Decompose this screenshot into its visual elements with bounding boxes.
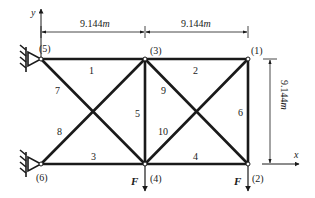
element-labels: 1 2 3 4 5 6 7 8 9 10 bbox=[55, 65, 243, 162]
node-6 bbox=[39, 162, 43, 166]
node-label-5: (5) bbox=[39, 43, 51, 55]
pin-support-node-5 bbox=[20, 45, 41, 72]
top-dimension: 9.144m 9.144m bbox=[41, 18, 248, 38]
load-label: F bbox=[130, 175, 139, 187]
element-label-7: 7 bbox=[55, 85, 60, 96]
truss-members bbox=[41, 59, 248, 164]
element-label-8: 8 bbox=[57, 126, 62, 137]
node-5 bbox=[39, 57, 43, 61]
y-axis-label: y bbox=[30, 7, 36, 18]
load-node-2: F bbox=[233, 166, 248, 191]
element-label-4: 4 bbox=[193, 151, 198, 162]
element-label-1: 1 bbox=[89, 65, 94, 76]
truss-diagram: y 9.144m 9.144m 9.144m x bbox=[0, 0, 315, 198]
element-label-2: 2 bbox=[193, 65, 198, 76]
dimension-left-label: 9.144m bbox=[80, 18, 110, 29]
element-label-3: 3 bbox=[91, 151, 96, 162]
node-label-3: (3) bbox=[150, 45, 162, 57]
node-3 bbox=[143, 57, 147, 61]
node-label-4: (4) bbox=[150, 173, 162, 185]
load-label: F bbox=[233, 175, 242, 187]
vertical-dimension: 9.144m bbox=[263, 59, 290, 163]
x-axis-label: x bbox=[293, 149, 299, 160]
node-label-2: (2) bbox=[252, 173, 264, 185]
node-label-1: (1) bbox=[251, 45, 263, 57]
element-label-9: 9 bbox=[161, 85, 166, 96]
element-label-10: 10 bbox=[158, 126, 168, 137]
x-axis: x bbox=[262, 149, 299, 164]
dimension-vertical-label: 9.144m bbox=[279, 80, 290, 110]
node-1 bbox=[246, 57, 250, 61]
node-label-6: (6) bbox=[36, 172, 48, 184]
load-node-4: F bbox=[130, 166, 145, 191]
element-label-6: 6 bbox=[238, 107, 243, 118]
node-2 bbox=[246, 162, 250, 166]
node-4 bbox=[143, 162, 147, 166]
dimension-right-label: 9.144m bbox=[181, 18, 211, 29]
element-label-5: 5 bbox=[135, 108, 140, 119]
